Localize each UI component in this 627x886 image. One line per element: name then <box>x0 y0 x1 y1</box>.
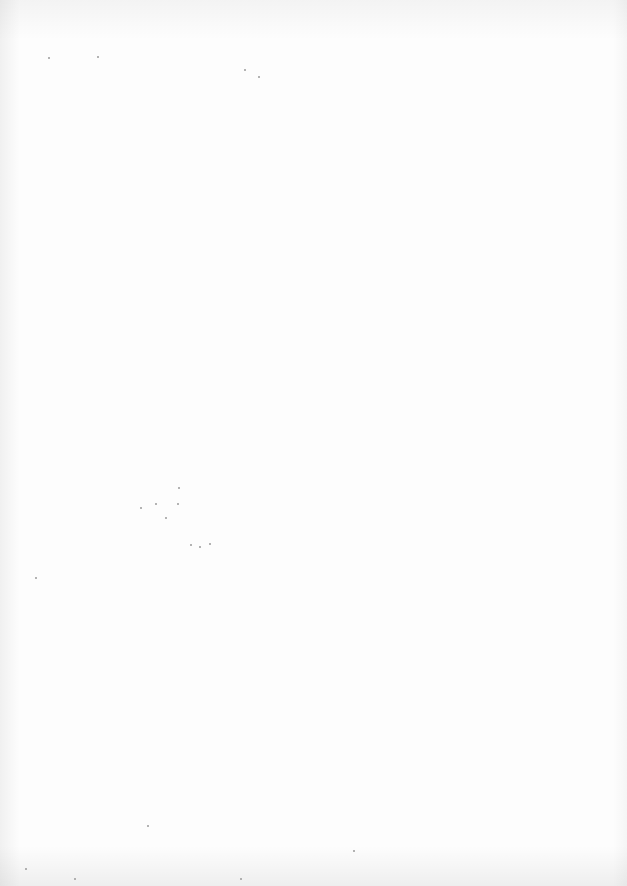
scan-speck <box>155 503 157 505</box>
scan-speck <box>35 577 37 579</box>
scan-speck <box>178 487 180 489</box>
scan-speck <box>177 503 179 505</box>
scan-speck <box>209 543 211 545</box>
scan-speck <box>97 56 99 58</box>
scan-speck <box>140 507 142 509</box>
scan-speck <box>48 57 50 59</box>
scan-speck <box>147 825 149 827</box>
scan-speck <box>199 546 201 548</box>
scan-speck <box>25 868 27 870</box>
scan-speck <box>190 544 192 546</box>
scan-speck <box>244 69 246 71</box>
scan-speck <box>258 76 260 78</box>
blank-scanned-page: Blank scanned page <box>0 0 627 886</box>
scan-speck <box>74 878 76 880</box>
scan-speck <box>165 517 167 519</box>
scan-speck <box>240 878 242 880</box>
scan-speck <box>353 850 355 852</box>
